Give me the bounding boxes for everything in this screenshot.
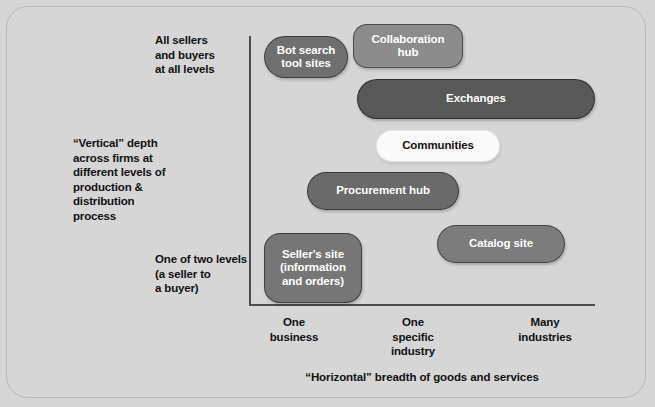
y-axis-label-title: “Vertical” depth across firms at differe… xyxy=(73,136,203,223)
x-axis-tick-many-industries: Many industries xyxy=(500,315,590,344)
x-axis-line xyxy=(249,304,595,306)
y-axis-label-top: All sellers and buyers at all levels xyxy=(155,33,260,77)
y-axis-label-bottom: One of two levels (a seller to a buyer) xyxy=(155,252,260,296)
x-axis-tick-one-specific-industry: One specific industry xyxy=(373,315,453,359)
node-catalog-site[interactable]: Catalog site xyxy=(437,225,565,263)
diagram-canvas: All sellers and buyers at all levels “Ve… xyxy=(0,0,655,407)
node-communities[interactable]: Communities xyxy=(376,130,500,162)
node-bot-search-tool-sites[interactable]: Bot search tool sites xyxy=(264,36,348,78)
node-exchanges[interactable]: Exchanges xyxy=(357,79,595,119)
node-collaboration-hub[interactable]: Collaboration hub xyxy=(353,24,463,68)
node-sellers-site[interactable]: Seller's site (information and orders) xyxy=(264,233,362,303)
x-axis-caption: “Horizontal” breadth of goods and servic… xyxy=(249,371,595,383)
x-axis-tick-one-business: One business xyxy=(254,315,334,344)
node-procurement-hub[interactable]: Procurement hub xyxy=(307,172,459,210)
